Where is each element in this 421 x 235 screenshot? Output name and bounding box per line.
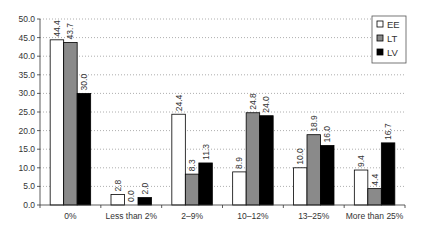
bar-ee <box>50 40 64 205</box>
value-label: 2.0 <box>140 182 150 194</box>
y-tick-label: 35.0 <box>18 70 35 80</box>
category-label: 0% <box>64 211 77 221</box>
value-label: 4.4 <box>370 174 380 186</box>
y-tick-label: 5.0 <box>23 181 35 191</box>
bar-ee <box>233 172 247 205</box>
bar-lv <box>381 143 395 205</box>
bar-lt <box>246 113 260 205</box>
category-label: Less than 2% <box>105 211 157 221</box>
value-label: 16.0 <box>322 126 332 143</box>
bar-ee <box>172 114 186 205</box>
legend: EELTLV <box>372 16 406 63</box>
bar-ee <box>294 168 308 205</box>
y-tick-label: 40.0 <box>18 51 35 61</box>
value-label: 44.4 <box>52 20 62 37</box>
bar-lt <box>185 174 199 205</box>
bar-lv <box>260 116 274 205</box>
category-label: 2–9% <box>181 211 203 221</box>
bar-lt <box>64 42 78 205</box>
bar-lt <box>307 135 321 205</box>
value-label: 11.3 <box>201 144 211 160</box>
legend-swatch-ee <box>377 21 383 27</box>
value-label: 16.7 <box>383 123 393 140</box>
bar-lv <box>321 145 335 205</box>
bar-chart: 0.05.010.015.020.025.030.035.040.045.050… <box>0 0 421 235</box>
value-label: 10.0 <box>295 148 305 165</box>
y-tick-label: 50.0 <box>18 14 35 24</box>
value-label: 24.4 <box>174 94 184 111</box>
bar-lv <box>77 93 91 205</box>
bars: 44.443.730.02.80.02.024.48.311.38.924.82… <box>50 20 395 205</box>
y-tick-label: 45.0 <box>18 33 35 43</box>
y-tick-label: 0.0 <box>23 200 35 210</box>
y-tick-label: 20.0 <box>18 126 35 136</box>
bar-ee <box>354 170 368 205</box>
value-label: 8.9 <box>234 157 244 169</box>
value-label: 24.8 <box>248 93 258 110</box>
y-tick-label: 15.0 <box>18 144 35 154</box>
gridlines <box>40 19 405 186</box>
bar-lt <box>368 189 382 205</box>
value-label: 24.0 <box>261 96 271 113</box>
value-label: 8.3 <box>187 159 197 171</box>
value-label: 9.4 <box>356 155 366 167</box>
value-label: 0.0 <box>126 190 136 202</box>
bar-ee <box>111 195 125 205</box>
category-label: More than 25% <box>346 211 404 221</box>
bar-lv <box>199 163 213 205</box>
y-axis: 0.05.010.015.020.025.030.035.040.045.050… <box>18 14 40 210</box>
value-label: 43.7 <box>65 23 75 40</box>
y-tick-label: 30.0 <box>18 88 35 98</box>
category-label: 10–12% <box>237 211 269 221</box>
value-label: 2.8 <box>113 179 123 191</box>
y-tick-label: 25.0 <box>18 107 35 117</box>
bar-lv <box>138 198 152 205</box>
value-label: 18.9 <box>309 115 319 132</box>
x-axis: 0%Less than 2%2–9%10–12%13–25%More than … <box>40 205 405 221</box>
y-tick-label: 10.0 <box>18 163 35 173</box>
category-label: 13–25% <box>298 211 330 221</box>
legend-swatch-lv <box>377 49 383 55</box>
legend-label: LV <box>387 47 399 58</box>
value-label: 30.0 <box>79 74 89 91</box>
legend-label: LT <box>387 33 398 44</box>
legend-label: EE <box>387 19 400 30</box>
legend-swatch-lt <box>377 35 383 41</box>
